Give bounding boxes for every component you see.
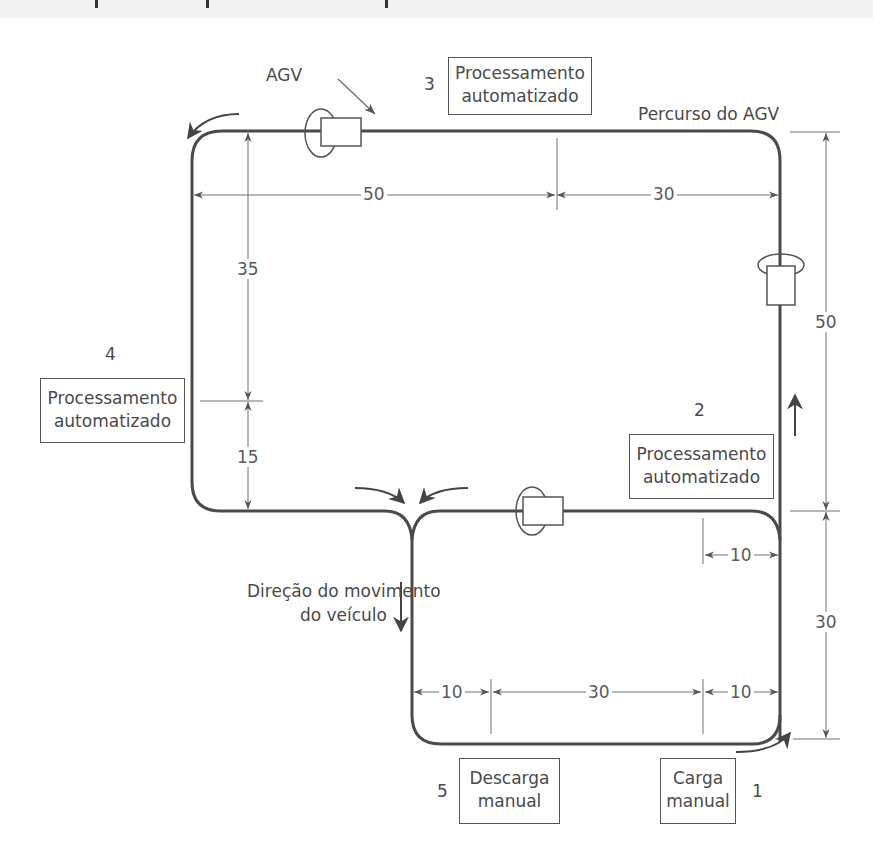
agv-label: AGV bbox=[266, 64, 302, 87]
path-label: Percurso do AGV bbox=[638, 103, 779, 126]
station-2-box: Processamento automatizado bbox=[629, 434, 774, 499]
station-3-number: 3 bbox=[424, 73, 435, 96]
station-1-box: Carga manual bbox=[660, 758, 736, 824]
agv-vehicle-bottom bbox=[516, 487, 563, 535]
dimension-right-lower: 30 bbox=[813, 612, 839, 632]
station-1-number: 1 bbox=[752, 780, 763, 803]
station-4-number: 4 bbox=[105, 343, 116, 366]
station-2-line1: Processamento bbox=[630, 443, 773, 466]
direction-label-line2: do veículo bbox=[247, 604, 387, 627]
dimension-left-lower: 15 bbox=[235, 447, 261, 467]
station-3-box: Processamento automatizado bbox=[448, 57, 592, 115]
dimension-bottom-right: 10 bbox=[728, 682, 754, 702]
dimension-bottom-middle: 30 bbox=[586, 682, 612, 702]
arrow-merge-right bbox=[420, 488, 468, 503]
agv-vehicle-top bbox=[305, 109, 361, 157]
dimension-top-left: 50 bbox=[361, 184, 387, 204]
station-1-line2: manual bbox=[661, 790, 735, 813]
direction-label-line1: Direção do movimento bbox=[247, 580, 387, 603]
station-1-line1: Carga bbox=[661, 767, 735, 790]
dimension-right-upper: 50 bbox=[813, 312, 839, 332]
arrow-merge-left bbox=[355, 488, 404, 503]
station-2-number: 2 bbox=[694, 399, 705, 422]
direction-arrows bbox=[188, 114, 795, 752]
station-5-box: Descarga manual bbox=[459, 758, 560, 824]
station-3-line1: Processamento bbox=[449, 62, 591, 85]
station-4-box: Processamento automatizado bbox=[40, 378, 185, 443]
dimension-inner-right: 10 bbox=[728, 545, 754, 565]
station-5-line2: manual bbox=[460, 790, 559, 813]
dimension-left-upper: 35 bbox=[235, 259, 261, 279]
station-4-line1: Processamento bbox=[41, 387, 184, 410]
dimension-bottom-left: 10 bbox=[439, 682, 465, 702]
station-4-line2: automatizado bbox=[41, 410, 184, 433]
station-5-line1: Descarga bbox=[460, 767, 559, 790]
station-3-line2: automatizado bbox=[449, 85, 591, 108]
dimension-top-right: 30 bbox=[651, 184, 677, 204]
arrow-top-left-curve bbox=[188, 114, 239, 138]
station-2-line2: automatizado bbox=[630, 466, 773, 489]
station-5-number: 5 bbox=[437, 780, 448, 803]
agv-pointer-arrow bbox=[338, 79, 375, 114]
